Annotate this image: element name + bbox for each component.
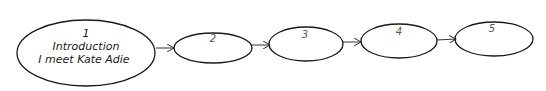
diagram-svg: 1 Introduction I meet Kate Adie 2 3 4 [0,0,546,91]
node-2-number: 2 [210,33,216,44]
node-5: 5 [455,22,533,56]
node-5-number: 5 [489,23,495,34]
node-1-number: 1 [83,27,90,40]
node-3-number: 3 [302,29,308,40]
flow-diagram: 1 Introduction I meet Kate Adie 2 3 4 [0,0,546,91]
edge-4-5-arrow [437,39,456,40]
node-1-title: Introduction [53,40,120,53]
node-1: 1 Introduction I meet Kate Adie [17,20,155,86]
node-4: 4 [361,24,437,58]
node-3: 3 [269,27,343,61]
node-2: 2 [174,33,252,63]
node-1-subtitle: I meet Kate Adie [38,53,130,66]
node-4-number: 4 [396,26,402,37]
